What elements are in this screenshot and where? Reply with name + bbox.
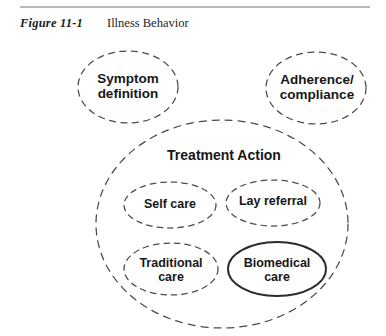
ellipse-treatment-action [96,120,348,328]
ellipse-symptom-definition [78,51,178,123]
ellipse-self-care [124,182,216,228]
illness-behavior-diagram: Symptom definition Adherence/ compliance… [0,0,386,336]
ellipse-lay-referral [226,180,320,226]
ellipse-biomedical-care [228,242,326,296]
ellipse-traditional-care [124,243,218,295]
ellipse-adherence-compliance [266,52,366,124]
figure-page: Figure 11-1 Illness Behavior Symptom def… [0,0,386,336]
